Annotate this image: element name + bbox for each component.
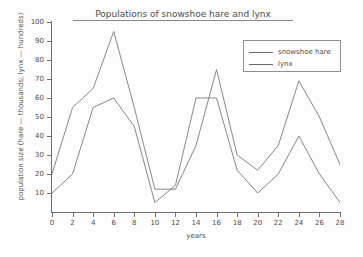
- y-tick-label: 70: [0, 75, 44, 83]
- y-tick-label: 20: [0, 170, 44, 178]
- x-tick-label: 8: [132, 219, 136, 227]
- x-tick: [52, 212, 53, 217]
- x-tick-label: 12: [171, 219, 180, 227]
- chart-legend: snowshoe hare lynx: [243, 40, 341, 72]
- x-tick-label: 24: [294, 219, 303, 227]
- x-tick: [258, 212, 259, 217]
- legend-swatch-icon: [249, 52, 273, 53]
- x-tick-label: 22: [274, 219, 283, 227]
- x-tick-label: 26: [315, 219, 324, 227]
- x-tick: [299, 212, 300, 217]
- x-tick: [340, 212, 341, 217]
- y-tick-label: 30: [0, 151, 44, 159]
- legend-swatch-icon: [249, 64, 273, 65]
- x-tick-label: 14: [192, 219, 201, 227]
- y-tick-label: 60: [0, 94, 44, 102]
- x-tick: [196, 212, 197, 217]
- chart-title: Populations of snowshoe hare and lynx: [73, 9, 293, 21]
- legend-label: lynx: [278, 60, 293, 68]
- x-tick: [175, 212, 176, 217]
- legend-item-snowshoe-hare: snowshoe hare: [249, 47, 331, 57]
- x-tick-label: 4: [91, 219, 95, 227]
- x-tick-label: 16: [212, 219, 221, 227]
- x-tick-label: 0: [50, 219, 54, 227]
- x-tick-label: 10: [150, 219, 159, 227]
- y-tick-label: 40: [0, 132, 44, 140]
- series-line-lynx: [52, 98, 340, 203]
- y-tick-label: 90: [0, 37, 44, 45]
- legend-item-lynx: lynx: [249, 59, 293, 69]
- x-tick: [155, 212, 156, 217]
- x-tick-label: 28: [336, 219, 345, 227]
- x-tick: [278, 212, 279, 217]
- x-tick-label: 2: [70, 219, 74, 227]
- x-tick-label: 6: [111, 219, 115, 227]
- chart-figure: Populations of snowshoe hare and lynx po…: [0, 0, 363, 257]
- x-tick-label: 20: [253, 219, 262, 227]
- y-tick-label: 80: [0, 56, 44, 64]
- y-tick-label: 50: [0, 113, 44, 121]
- x-axis-label: years: [52, 232, 340, 240]
- x-tick-label: 18: [233, 219, 242, 227]
- x-tick: [93, 212, 94, 217]
- y-tick-label: 10: [0, 189, 44, 197]
- x-tick: [319, 212, 320, 217]
- x-tick: [73, 212, 74, 217]
- x-tick: [134, 212, 135, 217]
- y-tick-label: 100: [0, 18, 44, 26]
- x-tick: [114, 212, 115, 217]
- x-tick: [237, 212, 238, 217]
- x-tick: [217, 212, 218, 217]
- legend-label: snowshoe hare: [278, 48, 331, 56]
